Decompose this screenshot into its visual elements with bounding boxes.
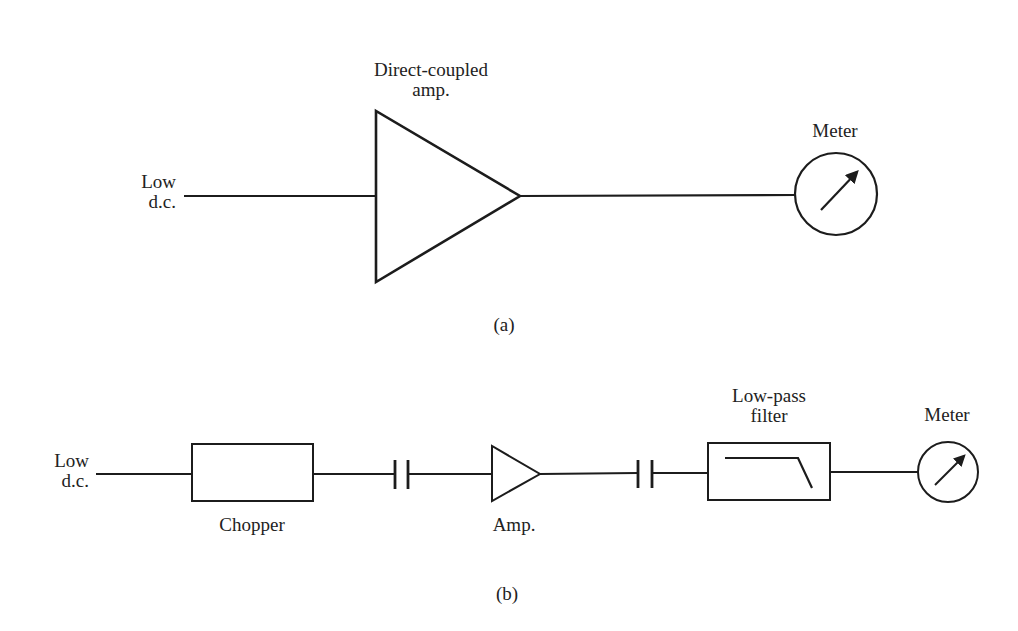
diagram-b-meter: [918, 442, 978, 502]
diagram-a-meter: [795, 153, 877, 235]
caption-a: (a): [493, 314, 514, 336]
low-pass-response-icon: [725, 458, 812, 488]
meter-needle-arrow-icon: [821, 172, 857, 210]
label-line: Meter: [812, 120, 858, 141]
direct-coupled-amplifier-symbol: [376, 111, 520, 282]
diagram-a: Lowd.c. Direct-coupledamp. Meter (a): [141, 59, 877, 336]
figure-canvas: Lowd.c. Direct-coupledamp. Meter (a) Low…: [0, 0, 1018, 631]
chopper-label: Chopper: [219, 514, 285, 535]
label-line: d.c.: [62, 470, 89, 491]
label-line: Low-pass: [732, 385, 806, 406]
wire: [540, 473, 638, 474]
label-line: Low: [54, 450, 89, 471]
chopper-block: [192, 444, 313, 501]
label-line: Chopper: [219, 514, 285, 535]
label-line: amp.: [412, 79, 449, 100]
label-line: Meter: [924, 404, 970, 425]
input-label-low-dc: Lowd.c.: [141, 171, 176, 212]
label-line: Direct-coupled: [374, 59, 488, 80]
label-line: Amp.: [493, 514, 536, 535]
wire: [520, 195, 796, 196]
capacitor-icon: [638, 460, 652, 488]
label-line: filter: [751, 405, 789, 426]
amplifier-symbol: [492, 446, 540, 501]
diagram-b: Lowd.c. Chopper Amp. Low-passfilter Mete…: [54, 385, 978, 605]
amp-label-direct-coupled: Direct-coupledamp.: [374, 59, 488, 100]
meter-needle-arrow-icon: [935, 456, 964, 485]
filter-label-low-pass: Low-passfilter: [732, 385, 806, 426]
diagram-b-wires: [96, 472, 918, 474]
meter-label: Meter: [924, 404, 970, 425]
label-line: d.c.: [149, 191, 176, 212]
label-line: Low: [141, 171, 176, 192]
low-pass-filter-block: [708, 443, 830, 500]
meter-label: Meter: [812, 120, 858, 141]
caption-b: (b): [496, 583, 518, 605]
input-label-low-dc: Lowd.c.: [54, 450, 89, 491]
capacitor-icon: [395, 460, 408, 489]
amp-label: Amp.: [493, 514, 536, 535]
filter-box: [708, 443, 830, 500]
diagram-a-wires: [184, 195, 796, 196]
